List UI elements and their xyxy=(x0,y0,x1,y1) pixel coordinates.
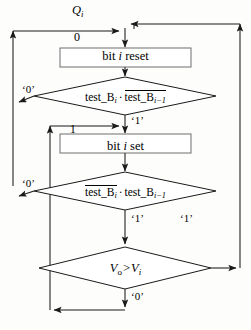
test2-operator: · xyxy=(117,186,125,198)
compare-rhs-sub: i xyxy=(139,267,142,277)
bit-set-prefix: bit xyxy=(107,139,123,153)
compare-rhs-base: V xyxy=(131,261,139,275)
branch-label-compare-false: ‘0’ xyxy=(131,291,144,302)
branch-label-test2-true: ‘1’ xyxy=(131,213,144,224)
bit-set-suffix: set xyxy=(127,139,144,153)
test2-term1-base: test_B xyxy=(85,186,114,198)
entry-label-q: Qi xyxy=(72,4,84,19)
node-bit-set-label: bit i set xyxy=(0,140,251,153)
branch-label-test1-true: ‘1’ xyxy=(131,115,144,126)
test1-term2-base: test_B xyxy=(125,91,154,103)
test2-term2-base: test_B xyxy=(125,186,154,198)
merge-label-one: 1 xyxy=(70,124,76,136)
test1-term2-sub: i−1 xyxy=(154,96,166,105)
node-bit-reset-label: bit i reset xyxy=(0,50,251,63)
branch-label-compare-true: ‘1’ xyxy=(180,213,193,224)
entry-label-zero: 0 xyxy=(74,31,80,43)
test2-term1-group: test_Bi xyxy=(85,185,117,201)
bit-reset-suffix: reset xyxy=(122,49,149,63)
entry-label-q-base: Q xyxy=(72,3,81,17)
flowchart-canvas: Qi 0 1 ‘0’ ‘1’ ‘0’ ‘1’ ‘1’ ‘0’ bit i res… xyxy=(0,0,251,330)
edge-right-rail-top xyxy=(134,24,240,29)
entry-label-q-sub: i xyxy=(81,9,84,19)
test1-operator: · xyxy=(117,91,125,103)
bit-reset-prefix: bit xyxy=(102,49,118,63)
node-test2-label: test_Bi·test_Bi−1 xyxy=(0,185,251,201)
node-test1-label: test_Bi·test_Bi−1 xyxy=(0,90,251,106)
node-compare-label: Vo>Vi xyxy=(0,262,251,277)
compare-operator: > xyxy=(122,261,131,275)
test1-term2-group: test_Bi−1 xyxy=(125,90,166,106)
test1-term1-base: test_B xyxy=(85,91,114,103)
test2-term2-sub: i−1 xyxy=(154,191,166,200)
